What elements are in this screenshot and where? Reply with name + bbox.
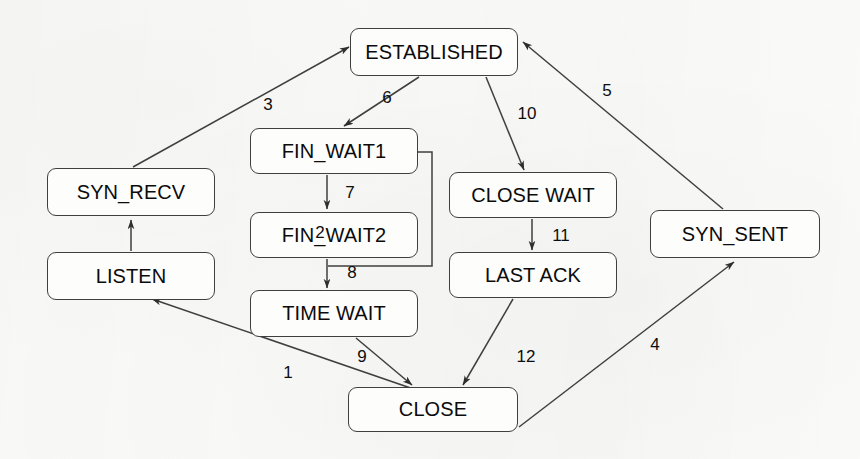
state-node-close[interactable]: CLOSE xyxy=(348,387,518,432)
state-label: SYN_SENT xyxy=(682,223,788,246)
transition-edge-12 xyxy=(463,299,513,385)
state-label: SYN_RECV xyxy=(77,181,186,204)
tcp-state-diagram: ESTABLISHED SYN_RECV LISTEN FIN_WAIT1 FI… xyxy=(0,0,860,459)
transition-label-12: 12 xyxy=(517,348,536,365)
transition-label-2: 2 xyxy=(315,224,324,241)
state-label: LISTEN xyxy=(96,265,167,288)
state-node-syn-sent[interactable]: SYN_SENT xyxy=(650,210,820,258)
transition-label-8: 8 xyxy=(347,264,356,281)
transition-label-3: 3 xyxy=(263,96,272,113)
state-label: TIME WAIT xyxy=(282,302,385,325)
state-label: FIN_WAIT2 xyxy=(282,224,387,247)
state-node-listen[interactable]: LISTEN xyxy=(47,252,215,300)
transition-label-6: 6 xyxy=(382,89,391,106)
transition-label-11: 11 xyxy=(552,227,570,244)
transition-label-10: 10 xyxy=(518,105,537,122)
state-node-syn-recv[interactable]: SYN_RECV xyxy=(47,168,215,216)
state-node-time-wait[interactable]: TIME WAIT xyxy=(250,290,418,337)
state-label: LAST ACK xyxy=(485,264,581,287)
transition-label-5: 5 xyxy=(602,82,611,99)
state-label: CLOSE WAIT xyxy=(471,184,595,207)
transition-label-7: 7 xyxy=(345,184,354,201)
state-node-close-wait[interactable]: CLOSE WAIT xyxy=(449,172,617,218)
state-label: ESTABLISHED xyxy=(365,41,502,64)
state-node-last-ack[interactable]: LAST ACK xyxy=(449,252,617,298)
state-node-fin-wait1[interactable]: FIN_WAIT1 xyxy=(250,128,418,174)
transition-edge-10 xyxy=(486,77,524,170)
transition-label-4: 4 xyxy=(650,336,659,353)
state-label: FIN_WAIT1 xyxy=(282,140,387,163)
state-node-fin-wait2[interactable]: FIN_WAIT2 xyxy=(250,212,418,258)
transition-label-1: 1 xyxy=(283,364,292,381)
transition-label-9: 9 xyxy=(357,348,366,365)
state-label: CLOSE xyxy=(399,398,467,421)
state-node-established[interactable]: ESTABLISHED xyxy=(350,28,518,76)
